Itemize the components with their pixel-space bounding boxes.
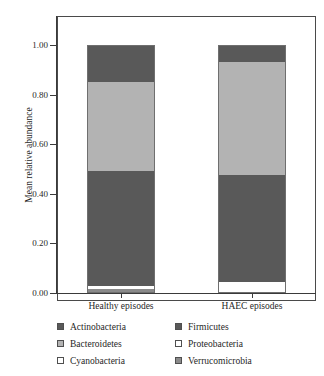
legend-swatch-actinobacteria-icon bbox=[57, 323, 64, 330]
y-tick-4 bbox=[50, 194, 57, 195]
legend-item-proteobacteria[interactable]: Proteobacteria bbox=[175, 339, 307, 349]
segment-firmicutes-healthy[interactable] bbox=[87, 171, 155, 285]
y-tick-6 bbox=[50, 293, 57, 294]
segment-proteobacteria-healthy[interactable] bbox=[87, 286, 155, 290]
x-tick-haec bbox=[252, 293, 253, 298]
legend: Actinobacteria Firmicutes Bacteroidetes … bbox=[57, 318, 307, 369]
segment-actinobacteria-healthy[interactable] bbox=[87, 45, 155, 82]
y-tick-5 bbox=[50, 243, 57, 244]
bar-haec-episodes[interactable] bbox=[218, 45, 286, 293]
y-tick-label-2: 0.80 bbox=[14, 90, 48, 100]
y-tick-label-4: 0.40 bbox=[14, 189, 48, 199]
plot-data-area bbox=[57, 45, 316, 293]
legend-item-verrucomicrobia[interactable]: Verrucomicrobia bbox=[175, 356, 307, 366]
x-tick-healthy bbox=[121, 293, 122, 298]
legend-label-verrucomicrobia: Verrucomicrobia bbox=[188, 356, 252, 366]
legend-label-proteobacteria: Proteobacteria bbox=[188, 339, 243, 349]
y-axis-title: Mean relative abundance bbox=[24, 40, 34, 270]
legend-item-firmicutes[interactable]: Firmicutes bbox=[175, 322, 307, 332]
y-tick-2 bbox=[50, 95, 57, 96]
legend-label-cyanobacteria: Cyanobacteria bbox=[70, 356, 125, 366]
y-tick-1 bbox=[50, 45, 57, 46]
legend-label-firmicutes: Firmicutes bbox=[188, 322, 229, 332]
x-axis-line bbox=[56, 293, 316, 294]
legend-swatch-verrucomicrobia-icon bbox=[175, 357, 182, 364]
legend-item-cyanobacteria[interactable]: Cyanobacteria bbox=[57, 356, 175, 366]
legend-swatch-firmicutes-icon bbox=[175, 323, 182, 330]
y-tick-label-1: 1.00 bbox=[14, 40, 48, 50]
stacked-bar-chart-figure: Mean relative abundance 1.00 0.80 0.60 0… bbox=[0, 0, 324, 376]
segment-proteobacteria-haec[interactable] bbox=[218, 282, 286, 293]
segment-bacteroidetes-haec[interactable] bbox=[218, 62, 286, 175]
legend-item-actinobacteria[interactable]: Actinobacteria bbox=[57, 322, 175, 332]
y-tick-3 bbox=[50, 144, 57, 145]
bar-healthy-episodes[interactable] bbox=[87, 45, 155, 293]
segment-bacteroidetes-healthy[interactable] bbox=[87, 82, 155, 171]
legend-swatch-bacteroidetes-icon bbox=[57, 340, 64, 347]
y-tick-label-6: 0.00 bbox=[14, 288, 48, 298]
segment-actinobacteria-haec[interactable] bbox=[218, 45, 286, 62]
segment-firmicutes-haec[interactable] bbox=[218, 175, 286, 282]
legend-swatch-cyanobacteria-icon bbox=[57, 357, 64, 364]
x-tick-label-healthy: Healthy episodes bbox=[61, 301, 181, 311]
x-tick-label-haec: HAEC episodes bbox=[192, 301, 312, 311]
legend-label-actinobacteria: Actinobacteria bbox=[70, 322, 126, 332]
y-tick-label-5: 0.20 bbox=[14, 238, 48, 248]
legend-swatch-proteobacteria-icon bbox=[175, 340, 182, 347]
legend-label-bacteroidetes: Bacteroidetes bbox=[70, 339, 122, 349]
y-tick-label-3: 0.60 bbox=[14, 139, 48, 149]
legend-item-bacteroidetes[interactable]: Bacteroidetes bbox=[57, 339, 175, 349]
